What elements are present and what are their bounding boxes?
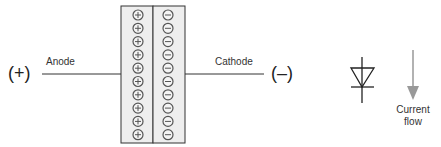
positive-charge-icon	[133, 77, 143, 87]
diode-diagram	[0, 0, 441, 147]
negative-charge-icon	[163, 103, 173, 113]
positive-charge-icon	[133, 50, 143, 60]
negative-charge-icon	[163, 10, 173, 20]
pn-junction	[121, 6, 185, 143]
anode-label: Anode	[46, 56, 75, 67]
positive-charge-icon	[133, 63, 143, 73]
negative-charge-icon	[163, 50, 173, 60]
positive-charge-icon	[133, 116, 143, 126]
current-flow-arrow-icon	[407, 50, 419, 100]
negative-charge-icon	[163, 77, 173, 87]
positive-charge-icon	[133, 103, 143, 113]
negative-charge-icon	[163, 116, 173, 126]
diode-symbol-icon	[351, 57, 374, 103]
cathode-label: Cathode	[215, 56, 253, 67]
negative-charge-icon	[163, 63, 173, 73]
negative-charge-icon	[163, 90, 173, 100]
positive-charge-icon	[133, 130, 143, 140]
negative-charge-icon	[163, 37, 173, 47]
cathode-terminal-label: (–)	[271, 63, 293, 84]
positive-charge-icon	[133, 90, 143, 100]
positive-charge-icon	[133, 10, 143, 20]
negative-charge-icon	[163, 23, 173, 33]
current-flow-label: Current flow	[396, 104, 430, 128]
current-flow-label-line2: flow	[396, 116, 430, 128]
negative-charge-icon	[163, 130, 173, 140]
anode-terminal-label: (+)	[8, 63, 31, 84]
positive-charge-icon	[133, 37, 143, 47]
current-flow-label-line1: Current	[396, 104, 430, 116]
positive-charge-icon	[133, 23, 143, 33]
